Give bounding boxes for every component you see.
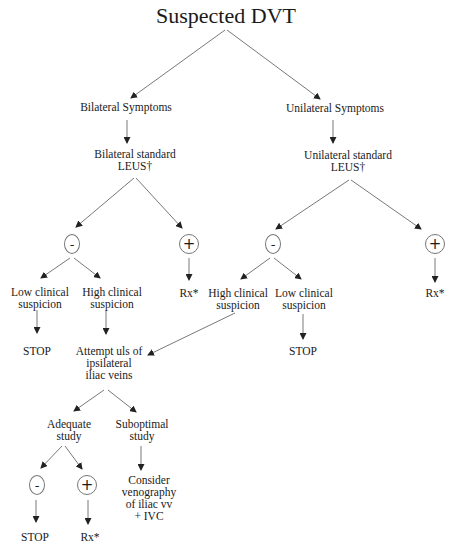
- node-bilateral-leus: Bilateral standard LEUS†: [94, 148, 175, 172]
- bil-negative-result: -: [64, 234, 80, 254]
- edge-uni-leus-to-negative: [276, 180, 349, 229]
- edge-uni-neg-to-high: [241, 258, 270, 279]
- node-final-rx: Rx*: [80, 531, 99, 543]
- edge-uni-neg-to-low: [274, 258, 301, 279]
- node-attempt-uls: Attempt uls of ipsilateral iliac veins: [76, 345, 142, 381]
- edge-attempt-to-suboptimal: [108, 390, 136, 412]
- node-unilateral-symptoms: Unilateral Symptoms: [286, 102, 384, 114]
- flowchart-edges: [0, 0, 457, 552]
- node-bil-high-suspicion: High clinical suspicion: [82, 286, 142, 310]
- node-uni-stop: STOP: [289, 345, 317, 357]
- node-bil-rx: Rx*: [179, 287, 198, 299]
- uni-positive-result: +: [425, 234, 445, 254]
- edge-adequate-to-positive: [65, 446, 82, 469]
- diagram-title: Suspected DVT: [156, 4, 296, 28]
- node-bilateral-symptoms: Bilateral Symptoms: [80, 101, 172, 113]
- edge-uni-leus-to-positive: [351, 180, 421, 229]
- edge-title-to-unilateral: [227, 30, 320, 99]
- node-final-stop: STOP: [21, 531, 49, 543]
- node-suboptimal-study: Suboptimal study: [115, 418, 168, 442]
- uni-negative-result: -: [265, 234, 281, 254]
- adequate-positive-result: +: [77, 475, 97, 495]
- node-consider-venography: Consider venography of iliac vv + IVC: [122, 474, 176, 522]
- edge-bil-leus-to-positive: [136, 178, 182, 228]
- node-uni-high-suspicion: High clinical suspicion: [208, 287, 268, 311]
- node-uni-rx: Rx*: [425, 287, 444, 299]
- node-bil-stop: STOP: [23, 345, 51, 357]
- edge-adequate-to-negative: [41, 446, 62, 468]
- adequate-negative-result: -: [29, 475, 45, 495]
- node-bil-low-suspicion: Low clinical suspicion: [11, 286, 69, 310]
- edge-attempt-to-adequate: [74, 390, 104, 411]
- edge-bil-neg-to-low: [41, 258, 70, 278]
- node-uni-low-suspicion: Low clinical suspicion: [275, 287, 333, 311]
- edge-bil-leus-to-negative: [76, 178, 134, 227]
- bil-positive-result: +: [179, 234, 199, 254]
- edge-uni-high-to-attempt: [148, 313, 235, 355]
- edge-bil-neg-to-high: [74, 258, 100, 278]
- edge-title-to-bilateral: [131, 30, 225, 98]
- node-unilateral-leus: Unilateral standard LEUS†: [304, 149, 392, 173]
- node-adequate-study: Adequate study: [47, 418, 91, 442]
